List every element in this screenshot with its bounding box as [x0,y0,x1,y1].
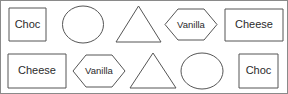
shape-group-r2c2[interactable]: Vanilla [73,55,125,87]
shape-group-r1c4[interactable]: Vanilla [165,9,217,40]
triangle-shape[interactable] [130,53,176,88]
shape-label: Cheese [235,18,273,30]
shape-label: Choc [246,64,272,76]
shape-group-r1c2[interactable] [63,6,104,43]
triangle-shape[interactable] [116,6,161,42]
shape-group-r2c4[interactable] [181,53,223,89]
diagram-canvas: Choc Vanilla Cheese Cheese Vanilla [0,0,288,94]
shape-label: Vanilla [85,65,114,76]
shape-group-r2c5[interactable]: Choc [239,54,278,88]
shape-layer: Choc Vanilla Cheese Cheese Vanilla [1,1,288,94]
circle-shape[interactable] [63,6,104,43]
shape-group-r1c3[interactable] [116,6,161,42]
shape-label: Choc [15,18,41,30]
shape-label: Vanilla [177,19,206,30]
shape-group-r2c1[interactable]: Cheese [8,54,66,88]
shape-group-r1c5[interactable]: Cheese [225,9,283,41]
shape-label: Cheese [18,64,56,76]
shape-group-r2c3[interactable] [130,53,176,88]
shape-group-r1c1[interactable]: Choc [9,8,46,41]
circle-shape[interactable] [181,53,223,89]
